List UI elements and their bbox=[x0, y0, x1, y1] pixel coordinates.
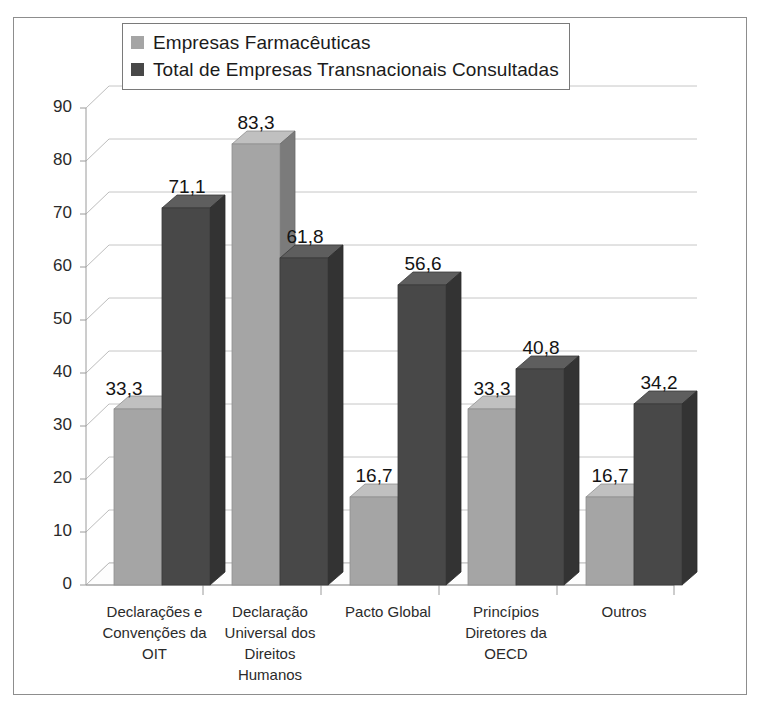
x-axis bbox=[86, 585, 674, 595]
chart-frame: 90 80 70 60 50 40 30 20 10 0 33,3 71,1 8… bbox=[13, 17, 747, 695]
chart-legend: Empresas Farmacêuticas Total de Empresas… bbox=[122, 23, 570, 90]
legend-label-series1: Empresas Farmacêuticas bbox=[153, 32, 371, 54]
x-category-label-3: Pacto Global bbox=[332, 601, 444, 622]
y-axis bbox=[80, 108, 86, 585]
bar-g5-total-transnacionais bbox=[634, 391, 697, 585]
x-category-label-2: Declaração Universal dos Direitos Humano… bbox=[214, 601, 326, 685]
value-label-g4-dark: 40,8 bbox=[505, 337, 577, 359]
bar-g3-total-transnacionais bbox=[398, 272, 461, 585]
y-tick-50: 50 bbox=[32, 309, 72, 329]
value-label-g5-dark: 34,2 bbox=[623, 372, 695, 394]
y-tick-20: 20 bbox=[32, 468, 72, 488]
y-tick-60: 60 bbox=[32, 256, 72, 276]
bar-g1-total-transnacionais bbox=[162, 195, 225, 585]
legend-swatch-icon-series1 bbox=[131, 36, 144, 49]
legend-swatch-icon-series2 bbox=[131, 63, 144, 76]
bar-chart-plot bbox=[14, 18, 748, 696]
value-label-g3-light: 16,7 bbox=[338, 465, 410, 487]
y-tick-80: 80 bbox=[32, 150, 72, 170]
bar-g2-total-transnacionais bbox=[280, 245, 343, 585]
y-tick-90: 90 bbox=[32, 97, 72, 117]
value-label-g3-dark: 56,6 bbox=[387, 253, 459, 275]
value-label-g5-light: 16,7 bbox=[574, 465, 646, 487]
y-tick-40: 40 bbox=[32, 362, 72, 382]
value-label-g4-light: 33,3 bbox=[456, 378, 528, 400]
x-category-label-1: Declarações e Convenções da OIT bbox=[92, 601, 217, 664]
y-tick-30: 30 bbox=[32, 415, 72, 435]
legend-item-total-transnacionais[interactable]: Total de Empresas Transnacionais Consult… bbox=[131, 56, 559, 83]
value-label-g1-dark: 71,1 bbox=[151, 176, 223, 198]
value-label-g2-dark: 61,8 bbox=[269, 226, 341, 248]
value-label-g1-light: 33,3 bbox=[88, 378, 160, 400]
x-category-label-5: Outros bbox=[568, 601, 680, 622]
y-tick-70: 70 bbox=[32, 203, 72, 223]
legend-label-series2: Total de Empresas Transnacionais Consult… bbox=[153, 59, 559, 81]
x-category-label-4: Princípios Diretores da OECD bbox=[450, 601, 562, 664]
value-label-g2-light: 83,3 bbox=[220, 112, 292, 134]
legend-item-empresas-farmaceuticas[interactable]: Empresas Farmacêuticas bbox=[131, 29, 559, 56]
y-tick-0: 0 bbox=[32, 574, 72, 594]
y-tick-10: 10 bbox=[32, 521, 72, 541]
depth-lines bbox=[86, 86, 109, 585]
